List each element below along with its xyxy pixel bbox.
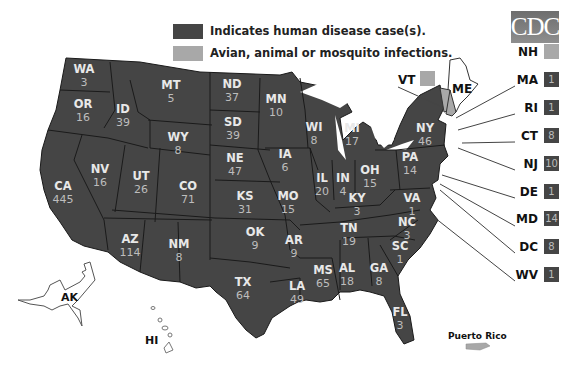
side-state-count: 1 <box>544 100 559 115</box>
side-state-count: 1 <box>544 184 559 199</box>
state-count-ga: 8 <box>376 275 383 288</box>
side-state-label: MA <box>508 73 538 87</box>
cdc-logo: CDC <box>511 11 559 43</box>
vt-label: VT <box>398 73 415 87</box>
side-state-label: NJ <box>508 157 538 171</box>
state-label-in: IN <box>336 171 350 185</box>
state-count-pa: 14 <box>403 164 417 177</box>
state-count-ut: 26 <box>134 183 148 196</box>
side-state-label: RI <box>508 101 538 115</box>
state-label-ga: GA <box>370 261 388 275</box>
state-count-wi: 8 <box>311 134 318 147</box>
legend: Indicates human disease case(s). Avian, … <box>173 21 452 65</box>
legend-label-animal: Avian, animal or mosquito infections. <box>210 46 452 60</box>
state-label-mt: MT <box>161 78 180 92</box>
legend-label-human: Indicates human disease case(s). <box>210 24 426 38</box>
state-label-nv: NV <box>91 162 110 176</box>
legend-swatch-human <box>173 24 203 39</box>
state-label-ar: AR <box>285 233 303 247</box>
side-state-count: 8 <box>544 239 559 254</box>
side-state-label: NH <box>508 45 538 59</box>
side-state-label: MD <box>508 212 538 226</box>
state-count-ar: 9 <box>291 247 298 260</box>
state-label-pa: PA <box>402 150 418 164</box>
state-count-mt: 5 <box>168 92 175 105</box>
side-state-dc: DC8 <box>508 239 559 254</box>
state-label-id: ID <box>116 102 130 116</box>
state-label-al: AL <box>339 261 356 275</box>
state-label-tx: TX <box>235 275 252 289</box>
side-state-ct: CT8 <box>508 128 559 143</box>
state-count-ks: 31 <box>238 203 252 216</box>
state-count-al: 18 <box>340 275 354 288</box>
state-count-mi: 17 <box>345 135 359 148</box>
state-label-wa: WA <box>73 62 94 76</box>
state-count-in: 4 <box>340 185 347 198</box>
state-label-ms: MS <box>313 263 333 277</box>
side-state-de: DE1 <box>508 184 559 199</box>
side-state-nj: NJ10 <box>508 156 559 171</box>
side-state-count: 14 <box>544 211 559 226</box>
state-label-mo: MO <box>277 189 298 203</box>
state-count-nd: 37 <box>225 91 239 104</box>
state-count-ok: 9 <box>252 239 259 252</box>
state-label-ia: IA <box>278 147 291 161</box>
side-state-ri: RI1 <box>508 100 559 115</box>
state-label-ny: NY <box>416 121 435 135</box>
hi-label: HI <box>145 334 158 347</box>
state-count-ne: 47 <box>228 165 242 178</box>
state-count-nv: 16 <box>93 176 107 189</box>
state-count-mn: 10 <box>269 106 283 119</box>
state-count-sd: 39 <box>226 129 240 142</box>
side-state-md: MD14 <box>508 211 559 226</box>
legend-swatch-animal <box>173 46 203 61</box>
ak-label: AK <box>61 291 78 304</box>
state-label-nm: NM <box>168 237 189 251</box>
state-count-wa: 3 <box>81 76 88 89</box>
state-label-oh: OH <box>360 163 379 177</box>
side-state-label: DC <box>508 240 538 254</box>
state-label-mi: MI <box>344 121 360 135</box>
state-label-il: IL <box>316 171 328 185</box>
state-count-tx: 64 <box>236 289 250 302</box>
state-label-va: VA <box>403 191 420 205</box>
state-label-ne: NE <box>226 151 244 165</box>
state-count-id: 39 <box>116 116 130 129</box>
legend-item-animal: Avian, animal or mosquito infections. <box>173 43 452 63</box>
side-state-wv: WV1 <box>508 267 559 282</box>
side-state-count: 8 <box>544 128 559 143</box>
state-label-ca: CA <box>54 179 71 193</box>
state-count-ia: 6 <box>282 161 289 174</box>
side-state-nh: NH <box>508 44 559 59</box>
state-count-or: 16 <box>76 111 90 124</box>
state-count-tn: 19 <box>342 235 356 248</box>
state-label-nd: ND <box>222 77 241 91</box>
state-label-mn: MN <box>265 92 286 106</box>
state-label-or: OR <box>74 97 93 111</box>
state-label-tn: TN <box>340 221 357 235</box>
state-label-ks: KS <box>236 189 253 203</box>
side-state-ma: MA1 <box>508 72 559 87</box>
state-count-sc: 1 <box>397 253 404 266</box>
legend-item-human: Indicates human disease case(s). <box>173 21 452 41</box>
state-label-co: CO <box>179 179 197 193</box>
state-label-ut: UT <box>132 169 149 183</box>
pr-label: Puerto Rico <box>448 331 507 341</box>
side-state-count: 10 <box>544 156 559 171</box>
side-state-label: WV <box>508 268 538 282</box>
state-count-az: 114 <box>120 246 141 259</box>
state-count-co: 71 <box>181 193 195 206</box>
state-count-il: 20 <box>315 185 329 198</box>
side-state-label: CT <box>508 129 538 143</box>
state-count-wy: 8 <box>175 144 182 157</box>
side-state-label: DE <box>508 185 538 199</box>
state-count-mo: 15 <box>281 203 295 216</box>
state-label-wi: WI <box>306 120 323 134</box>
state-label-az: AZ <box>121 232 138 246</box>
side-state-count: 1 <box>544 72 559 87</box>
side-state-count: 1 <box>544 267 559 282</box>
state-count-ny: 46 <box>418 135 432 148</box>
state-count-nm: 8 <box>176 251 183 264</box>
state-count-ca: 445 <box>53 193 74 206</box>
vt-swatch <box>420 71 435 86</box>
